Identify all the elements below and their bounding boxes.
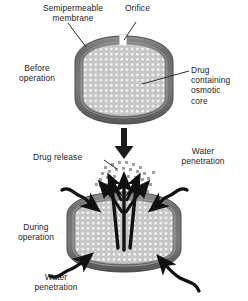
label-drug-containing-osmotic-core: Drug containing osmotic core — [191, 65, 247, 106]
label-drug-release: Drug release — [33, 152, 107, 162]
label-water-penetration-bottom: Water penetration — [14, 272, 98, 292]
osmotic-pump-figure: Semipermeable membrane Orifice Before op… — [0, 0, 248, 301]
orifice — [120, 35, 127, 46]
leader-line-semipermeable — [68, 23, 86, 47]
label-during-operation: During operation — [3, 222, 69, 242]
label-before-operation: Before operation — [4, 63, 70, 83]
osmotic-core — [83, 44, 165, 116]
transition-arrow — [115, 128, 134, 159]
label-orifice: Orifice — [125, 3, 185, 13]
water-arrow-bottom-right — [163, 262, 199, 291]
label-water-penetration-top: Water penetration — [162, 146, 244, 166]
label-semipermeable-membrane: Semipermeable membrane — [25, 3, 121, 23]
